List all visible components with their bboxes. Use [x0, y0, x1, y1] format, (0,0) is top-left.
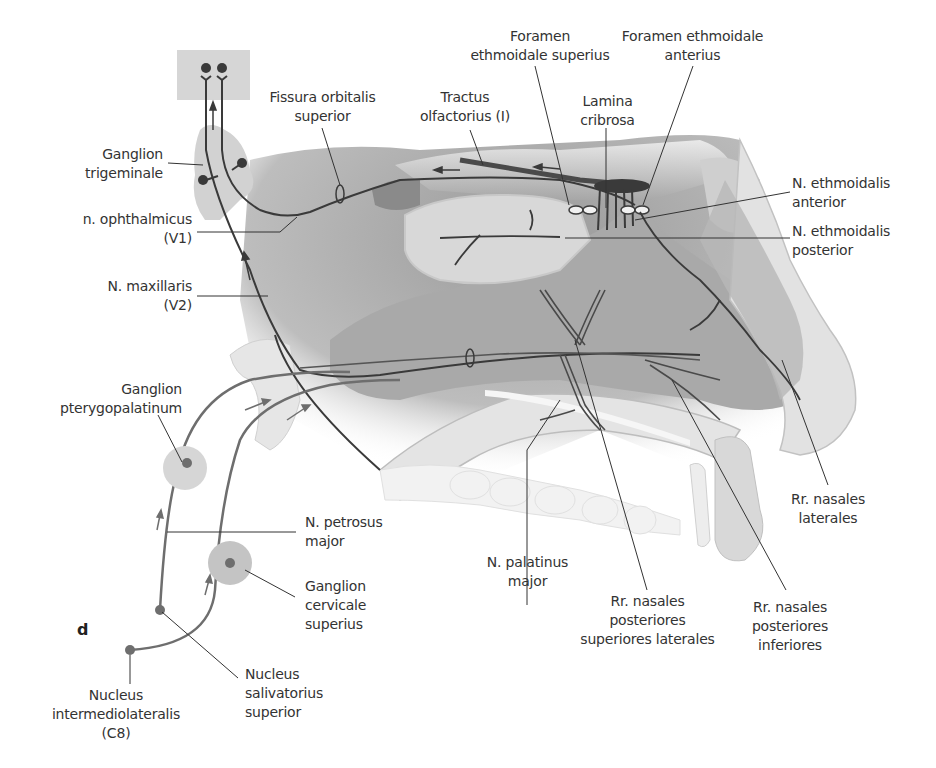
label-rr-nasales-post-inf: Rr. nasales posteriores inferiores: [740, 598, 840, 655]
label-foramen-ethmoidale-anterius: Foramen ethmoidale anterius: [610, 27, 775, 65]
label-rr-nasales-post-sup-lat: Rr. nasales posteriores superiores later…: [570, 592, 725, 649]
autonomic-ganglia: [125, 446, 252, 655]
teeth: [380, 465, 680, 535]
panel-letter: d: [77, 620, 88, 639]
label-fissura-orbitalis-superior: Fissura orbitalis superior: [255, 88, 390, 126]
nasal-innervation-figure: d Ganglion trigeminale Fissura orbitalis…: [0, 0, 936, 768]
label-ganglion-cervicale-superius: Ganglion cervicale superius: [305, 577, 366, 634]
label-n-palatinus-major: N. palatinus major: [470, 553, 585, 591]
label-foramen-ethmoidale-superius: Foramen ethmoidale superius: [460, 27, 620, 65]
cortex-box: [177, 50, 250, 100]
label-n-ethmoidalis-anterior: N. ethmoidalis anterior: [792, 174, 890, 212]
label-nucleus-intermediolateralis: Nucleus intermediolateralis (C8): [40, 686, 192, 743]
label-tractus-olfactorius: Tractus olfactorius (I): [405, 88, 525, 126]
label-n-maxillaris: N. maxillaris (V2): [60, 277, 192, 315]
trigeminal-ganglion: [194, 125, 254, 220]
label-n-petrosus-major: N. petrosus major: [305, 513, 383, 551]
label-ganglion-trigeminale: Ganglion trigeminale: [60, 145, 163, 183]
label-lamina-cribrosa: Lamina cribrosa: [570, 92, 645, 130]
label-ganglion-pterygopalatinum: Ganglion pterygopalatinum: [30, 380, 182, 418]
label-n-ophthalmicus: n. ophthalmicus (V1): [60, 210, 192, 248]
label-n-ethmoidalis-posterior: N. ethmoidalis posterior: [792, 222, 890, 260]
label-nucleus-salivatorius-superior: Nucleus salivatorius superior: [245, 665, 323, 722]
label-rr-nasales-laterales: Rr. nasales laterales: [783, 490, 873, 528]
olfactory-bulb: [594, 179, 650, 193]
